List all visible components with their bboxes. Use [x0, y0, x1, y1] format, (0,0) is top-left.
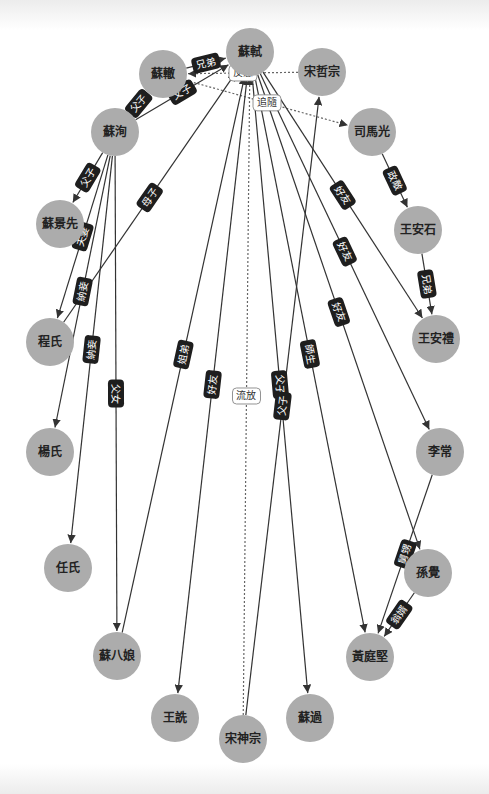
edge-label: 好友	[327, 296, 351, 328]
svg-text:納妾: 納妾	[84, 339, 98, 360]
node-label: 孫覺	[416, 565, 440, 580]
node-sujingxian[interactable]: 蘇景先	[36, 200, 84, 248]
edge-label: 母子	[135, 181, 164, 213]
svg-text:父子: 父子	[276, 395, 289, 416]
node-lichang[interactable]: 李常	[416, 428, 464, 476]
node-sushi[interactable]: 蘇軾	[226, 28, 274, 76]
node-label: 王詵	[163, 710, 187, 725]
node-sunjue[interactable]: 孫覺	[404, 549, 452, 597]
node-label: 黃庭堅	[351, 649, 388, 664]
node-wanganshi[interactable]: 王安石	[394, 206, 442, 254]
node-label: 蘇過	[297, 710, 323, 725]
node-yangshi[interactable]: 楊氏	[26, 428, 74, 476]
edge-label: 翁婿	[385, 599, 414, 631]
node-simaguang[interactable]: 司馬光	[348, 108, 396, 156]
node-label: 蘇景先	[41, 216, 78, 231]
node-label: 蘇洵	[102, 124, 127, 139]
edge-label: 父女	[108, 379, 124, 407]
node-shenzong[interactable]: 宋神宗	[219, 715, 267, 763]
node-label: 司馬光	[354, 124, 390, 139]
node-label: 程氏	[38, 334, 62, 349]
node-label: 李常	[427, 444, 452, 459]
edge-label: 政敵	[382, 164, 408, 196]
node-huangtingjian[interactable]: 黃庭堅	[346, 633, 394, 681]
node-label: 蘇軾	[237, 44, 262, 59]
node-label: 任氏	[55, 560, 80, 575]
edge-label: 好友	[332, 235, 358, 267]
edge-label: 好友	[203, 370, 222, 400]
edge-label: 納妾	[72, 276, 93, 307]
node-subaniang[interactable]: 蘇八娘	[93, 632, 141, 680]
edge-label: 好友	[328, 179, 357, 211]
node-label: 宋神宗	[225, 731, 261, 746]
node-label: 王安石	[400, 222, 436, 237]
svg-text:好友: 好友	[205, 374, 219, 395]
svg-text:父女: 父女	[110, 383, 122, 403]
node-label: 蘇八娘	[98, 648, 135, 663]
node-chengshi[interactable]: 程氏	[26, 318, 74, 366]
node-suxun[interactable]: 蘇洵	[91, 108, 139, 156]
node-wangshen[interactable]: 王詵	[151, 694, 199, 742]
edge-label: 姐弟	[173, 339, 195, 370]
relationship-graph: 兄弟反感追隨父子父子父子夫妻納妾納妾父女母子姐弟好友流放父子父子師生好友好友好友…	[0, 0, 489, 794]
node-label: 王安禮	[418, 331, 454, 346]
svg-text:流放: 流放	[236, 389, 256, 401]
edge-label: 父子	[273, 391, 292, 421]
node-suguo[interactable]: 蘇過	[286, 694, 334, 742]
node-suzhe[interactable]: 蘇轍	[139, 50, 187, 98]
edge-label: 師生	[299, 339, 320, 370]
edge-label: 流放	[232, 388, 260, 404]
node-label: 宋哲宗	[304, 64, 340, 79]
edge-label: 追隨	[253, 95, 281, 111]
svg-text:追隨: 追隨	[257, 96, 277, 108]
edge-label: 兄弟	[417, 269, 437, 299]
node-zhezong[interactable]: 宋哲宗	[298, 48, 346, 96]
edge-label: 納妾	[82, 335, 101, 365]
node-wanganli[interactable]: 王安禮	[412, 315, 460, 363]
node-label: 蘇轍	[150, 66, 176, 81]
node-label: 楊氏	[38, 444, 62, 459]
node-renshi[interactable]: 任氏	[44, 544, 92, 592]
